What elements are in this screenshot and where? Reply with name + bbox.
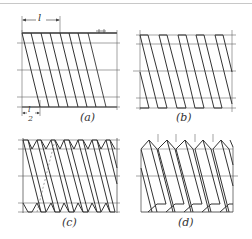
panel-c — [18, 138, 120, 213]
half-lead-denominator: 2 — [28, 114, 33, 123]
thread-construction-diagram — [0, 0, 252, 239]
panel-c-label: (c) — [62, 216, 77, 229]
half-lead-numerator: l — [28, 105, 31, 114]
panel-a-label: (a) — [80, 111, 95, 124]
panel-b-label: (b) — [176, 111, 192, 124]
panel-d — [136, 134, 238, 212]
panel-d-label: (d) — [178, 216, 194, 229]
lead-dimension-label: l — [38, 12, 41, 23]
panel-a — [17, 16, 120, 116]
panel-b — [133, 30, 236, 112]
